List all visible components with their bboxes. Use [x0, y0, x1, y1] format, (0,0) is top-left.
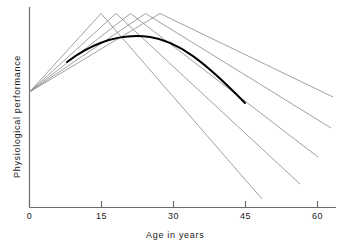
series-mean-trend: [67, 36, 245, 103]
mean-trend-curve-group: [67, 36, 245, 103]
x-tick-label-30: 30: [159, 211, 189, 221]
x-tick-label-15: 15: [87, 211, 117, 221]
chart-figure: 0 15 30 45 60 Age in years Physiological…: [0, 0, 345, 252]
series-individual-4: [30, 14, 332, 129]
x-tick-label-45: 45: [231, 211, 261, 221]
series-individual-2: [30, 14, 301, 185]
x-tick-label-0: 0: [15, 211, 45, 221]
series-individual-3: [30, 14, 319, 158]
x-tick-marks: [30, 201, 318, 208]
y-axis-title: Physiological performance: [12, 55, 22, 178]
x-axis-title: Age in years: [146, 230, 204, 240]
individual-trajectories: [30, 14, 334, 200]
x-tick-label-60: 60: [303, 211, 333, 221]
